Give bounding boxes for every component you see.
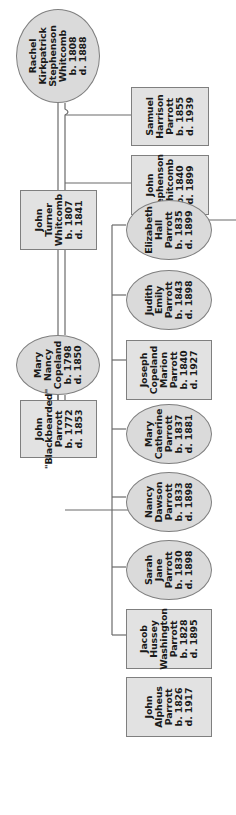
person-child-7: JohnAlpheusParrottb. 1826d. 1917 (126, 677, 212, 737)
person-text-line: Parrott (54, 411, 64, 448)
person-text-line: d. 1917 (184, 688, 194, 727)
person-text-line: d. 1895 (189, 620, 199, 659)
person-child-4: NancyDawsonParrottb. 1833d. 1898 (126, 472, 212, 532)
person-child-1: JudithEmilyParrottb. 1843d. 1898 (126, 270, 212, 330)
person-child-3: MaryCatherineParrottb. 1837d. 1881 (126, 404, 212, 464)
person-text-line: d. 1888 (78, 37, 88, 76)
person-john-turner-whitcomb: JohnTurnerWhitcombb. 1807d. 1841 (20, 190, 97, 250)
person-text-line: d. 1881 (184, 415, 194, 454)
person-text-line: d. 1898 (184, 281, 194, 320)
person-text-line: d. 1850 (73, 346, 83, 385)
person-child-2: JosephCopelandMarionParrottb. 1840d. 192… (126, 340, 212, 400)
person-child-6: JacobHusseyWashingtonParrottb. 1828d. 18… (126, 609, 212, 669)
person-text-line: d. 1939 (185, 97, 195, 136)
person-john-blackbearded-parrott: John"Blackbearded"Parrottb. 1772d. 1853 (20, 400, 97, 458)
person-text-line: b. 1772 (64, 410, 74, 449)
person-samuel-harrison-parrott: SamuelHarrisonParrottb. 1855d. 1939 (131, 87, 209, 146)
family-tree-diagram: RachelKirkpatrickStephensonWhitcombb. 18… (0, 0, 236, 815)
person-text-line: d. 1841 (74, 201, 84, 240)
person-text-line: b. 1807 (64, 201, 74, 240)
person-mary-nancy-copeland: MaryNancyCopelandb. 1798d. 1850 (16, 335, 100, 395)
person-rachel-whitcomb: RachelKirkpatrickStephensonWhitcombb. 18… (16, 9, 100, 103)
person-text-line: Whitcomb (54, 194, 64, 246)
person-text-line: John (34, 209, 44, 232)
person-text-line: d. 1927 (189, 351, 199, 390)
person-text-line: d. 1899 (185, 166, 195, 205)
person-text-line: "Blackbearded" (44, 389, 54, 469)
person-text-line: d. 1899 (184, 211, 194, 250)
person-child-0: ElizabethHallParrottb. 1835d. 1899 (126, 200, 212, 260)
person-text-line: d. 1898 (184, 551, 194, 590)
person-text-line: Turner (44, 203, 54, 237)
person-text-line: d. 1853 (74, 410, 84, 449)
person-text-line: John (34, 418, 44, 441)
person-child-5: SarahJaneParrottb. 1830d. 1898 (126, 540, 212, 600)
person-text-line: d. 1898 (184, 483, 194, 522)
